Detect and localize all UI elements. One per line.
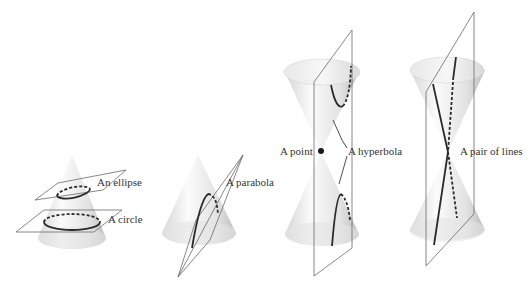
vertex-point <box>318 148 324 154</box>
hyperbola-leader-upper <box>333 120 347 148</box>
lower-nappe-base <box>409 218 485 242</box>
label-hyperbola: A hyperbola <box>348 145 402 157</box>
panel-pair-of-lines: A pair of lines <box>409 12 523 266</box>
hyperbola-leader-lower <box>339 156 347 184</box>
conic-sections-diagram: An ellipse A circle A parabola A point <box>0 0 531 289</box>
label-point: A point <box>280 145 313 157</box>
label-lines: A pair of lines <box>460 145 523 157</box>
panel-point-hyperbola: A point A hyperbola <box>280 30 402 276</box>
upper-nappe-top <box>284 59 360 85</box>
upper-nappe-top <box>410 57 484 83</box>
lower-nappe-base <box>285 222 359 246</box>
label-ellipse: An ellipse <box>97 176 142 188</box>
panel-circle-ellipse: An ellipse A circle <box>16 155 143 249</box>
cone-base <box>162 221 236 245</box>
label-parabola: A parabola <box>226 176 274 188</box>
label-circle: A circle <box>108 213 143 225</box>
panel-parabola: A parabola <box>162 155 274 277</box>
